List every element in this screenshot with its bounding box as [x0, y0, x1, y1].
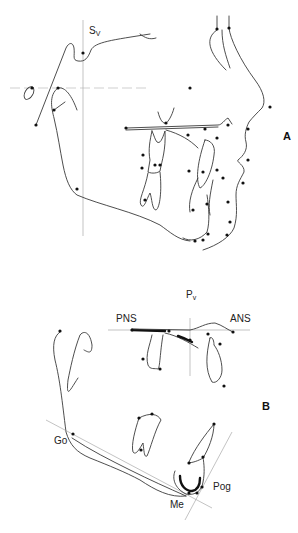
- pns-point-a: [124, 126, 127, 129]
- b-point: [205, 202, 208, 205]
- pterygomaxillary-fissure: [158, 108, 174, 123]
- molar-point-1: [141, 153, 144, 156]
- b-point-b: [201, 455, 204, 458]
- mandible-outline: [52, 88, 191, 241]
- menton-point: [187, 491, 190, 494]
- incisal-point-1: [187, 169, 190, 172]
- sv-label: SV: [89, 25, 101, 37]
- go-label: Go: [54, 435, 68, 446]
- upper-molar-b: [147, 335, 163, 369]
- sella-point: [81, 51, 84, 54]
- nasal-bone: [210, 16, 226, 70]
- me-label: Me: [170, 499, 184, 510]
- orbitale-point: [188, 86, 191, 89]
- palatal-point: [186, 133, 189, 136]
- palatal-plane: [126, 118, 232, 128]
- symphysis-outline: [183, 195, 209, 240]
- labrale-superius: [246, 158, 249, 161]
- molar-point-4: [158, 163, 161, 166]
- pronasale-point: [268, 105, 271, 108]
- condyle-b: [67, 332, 92, 391]
- palate-curve-b: [165, 333, 198, 348]
- incisal-point-2: [201, 170, 204, 173]
- cephalometric-diagram: SV A: [0, 0, 298, 533]
- soft-pogonion: [225, 233, 228, 236]
- gnathion-point-a: [201, 238, 204, 241]
- upper-molar-cusp-b: [141, 357, 144, 360]
- lower-incisor-apex-b: [187, 461, 190, 464]
- panel-b-tracing: Pv PNS ANS Go Me Pog B: [46, 289, 270, 520]
- basion-point: [34, 123, 37, 126]
- lower-incisor-labial: [189, 178, 198, 212]
- a-point-b: [206, 332, 209, 335]
- stomion-point: [241, 181, 244, 184]
- pterygoid-point-b: [167, 329, 170, 332]
- upper-lip-point: [221, 176, 224, 179]
- gonion-point-a: [75, 187, 78, 190]
- upper-incisor-apex-b: [218, 342, 221, 345]
- ear-rod-outline: [22, 85, 36, 101]
- pog-label: Pog: [213, 481, 231, 492]
- pogonion-point: [200, 485, 203, 488]
- condylion-point-b: [58, 329, 61, 332]
- lower-molar-cusp-2: [150, 412, 153, 415]
- lower-incisor-lingual: [209, 180, 213, 215]
- panel-b-landmarks: [58, 328, 234, 494]
- a-point-a: [203, 127, 206, 130]
- upper-incisor-tip: [215, 168, 218, 171]
- ans-point-a: [226, 123, 229, 126]
- labrale-inferius: [226, 200, 229, 203]
- subnasale-point: [246, 127, 249, 130]
- frontal-process: [222, 30, 230, 68]
- soft-nasion-point: [227, 26, 230, 29]
- symphysis-inner-thick: [180, 476, 200, 491]
- upper-incisor-apex: [215, 136, 218, 139]
- cranial-base-outline: [36, 34, 150, 125]
- mandible-outline-b2: [72, 438, 186, 496]
- lower-molar: [140, 172, 161, 210]
- upper-incisor: [198, 140, 215, 188]
- lower-molar-apex: [143, 198, 146, 201]
- molar-point-2: [140, 166, 143, 169]
- molar-point-3: [153, 163, 156, 166]
- pns-point: [130, 328, 133, 331]
- upper-incisor-tip-b: [222, 384, 225, 387]
- condylion-point: [56, 86, 59, 89]
- lower-incisor-apex: [191, 208, 194, 211]
- pns-thick-segment: [132, 330, 165, 331]
- panel-a-tracing: SV A: [10, 16, 291, 250]
- pns-label: PNS: [116, 313, 137, 324]
- pterygoid-point: [164, 121, 167, 124]
- panel-a-label: A: [283, 130, 291, 142]
- pv-label: Pv: [186, 289, 197, 301]
- panel-b-label: B: [262, 400, 270, 412]
- lower-molar-cusp-1: [137, 416, 140, 419]
- mandibular-plane-line: [46, 420, 212, 508]
- upper-molar-root-b: [158, 367, 161, 370]
- upper-molar: [148, 131, 165, 173]
- gonion-point: [71, 432, 74, 435]
- lower-molar-b: [132, 414, 161, 456]
- nasion-point: [215, 27, 218, 30]
- soft-b-point: [228, 220, 231, 223]
- facial-plane-line: [185, 432, 232, 520]
- porion-point: [30, 86, 33, 89]
- articulare-line: [54, 102, 65, 110]
- ans-label: ANS: [230, 313, 251, 324]
- palate-curve: [166, 130, 198, 148]
- menton-point-a: [193, 239, 196, 242]
- lower-incisor-tip-b: [212, 422, 215, 425]
- pogonion-point-a: [206, 232, 209, 235]
- pv-intersection-point: [188, 338, 191, 341]
- gnathion-point: [195, 491, 198, 494]
- ans-point: [231, 330, 234, 333]
- lower-molar-apex-b: [139, 448, 142, 451]
- articulare-point: [52, 108, 55, 111]
- condyle-outline: [58, 88, 77, 110]
